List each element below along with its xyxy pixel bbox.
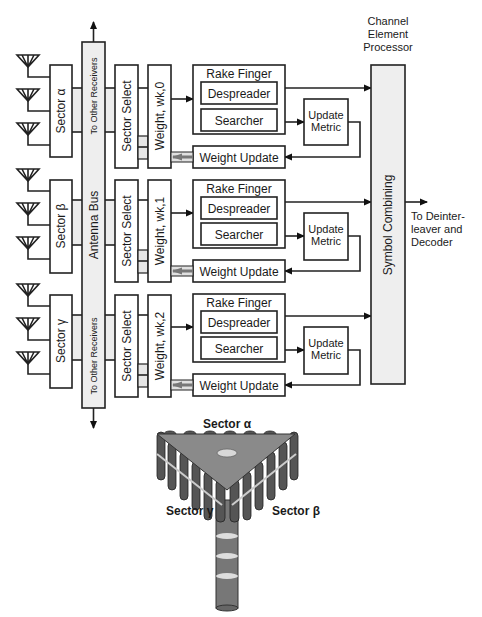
rake-finger-label: Rake Finger: [206, 182, 271, 196]
tower-sector-alpha-label: Sector α: [203, 417, 252, 431]
cep-title-line1: Channel: [368, 15, 409, 27]
sector-select-label: Sector Select: [120, 80, 134, 152]
weight-update-label: Weight Update: [199, 265, 278, 279]
rake-finger-label: Rake Finger: [206, 67, 271, 81]
tower-sector-gamma-label: Sector γ: [166, 504, 214, 518]
output-label-line1: To Deinter-: [411, 210, 465, 222]
antenna-icon: [17, 55, 50, 77]
update-metric-label-1: Update: [308, 223, 343, 235]
rake-finger-label: Rake Finger: [206, 296, 271, 310]
antenna-bus: To Other Receivers Antenna Bus To Other …: [72, 22, 115, 428]
update-metric-label-2: Metric: [311, 235, 341, 247]
to-other-receivers-bottom-label: To Other Receivers: [89, 317, 99, 395]
sector-gamma-group: Sector γ: [17, 284, 72, 388]
sector-gamma-label: Sector γ: [54, 319, 68, 363]
cep-title-line3: Processor: [363, 41, 413, 53]
to-other-receivers-top-label: To Other Receivers: [89, 57, 99, 135]
searcher-label: Searcher: [215, 342, 264, 356]
weight-label: Weight, wk,0: [153, 81, 167, 150]
antenna-icon: [17, 318, 50, 340]
antenna-icon: [17, 203, 50, 225]
antenna-icon: [17, 352, 50, 374]
antenna-icon: [17, 169, 50, 191]
update-metric-label-1: Update: [308, 337, 343, 349]
antenna-bus-label: Antenna Bus: [87, 191, 101, 260]
despreader-label: Despreader: [208, 87, 271, 101]
antenna-icon: [17, 123, 50, 145]
symbol-combining-block: Symbol Combining To Deinter- leaver and …: [371, 65, 465, 384]
weight-update-label: Weight Update: [199, 151, 278, 165]
tower-illustration: Sector α Sector γ Sector β: [157, 417, 320, 611]
sector-beta-label: Sector β: [54, 203, 68, 248]
antenna-icon: [17, 237, 50, 259]
antenna-icon: [17, 89, 50, 111]
symbol-combining-label: Symbol Combining: [381, 175, 395, 276]
weight-update-label: Weight Update: [199, 379, 278, 393]
antenna-icon: [17, 284, 50, 306]
sector-beta-group: Sector β: [17, 169, 72, 273]
sector-alpha-group: Sector α: [17, 55, 72, 157]
update-metric-label-1: Update: [308, 109, 343, 121]
finger-chain-0: Sector Select Weight, wk,0 Rake Finger D…: [115, 65, 371, 168]
output-label-line2: leaver and: [411, 223, 462, 235]
finger-chain-2: Sector Select Weight, wk,2 Rake Finger D…: [115, 294, 371, 397]
sector-select-label: Sector Select: [120, 310, 134, 382]
output-label-line3: Decoder: [411, 236, 453, 248]
weight-label: Weight, wk,1: [153, 196, 167, 265]
finger-chain-1: Sector Select Weight, wk,1 Rake Finger D…: [115, 180, 371, 282]
cep-title-line2: Element: [368, 28, 408, 40]
update-metric-label-2: Metric: [311, 349, 341, 361]
despreader-label: Despreader: [208, 202, 271, 216]
searcher-label: Searcher: [215, 228, 264, 242]
channel-element-processor-title: Channel Element Processor: [363, 15, 413, 53]
sector-alpha-label: Sector α: [54, 88, 68, 133]
tower-sector-beta-label: Sector β: [272, 504, 320, 518]
searcher-label: Searcher: [215, 114, 264, 128]
sector-select-label: Sector Select: [120, 195, 134, 267]
despreader-label: Despreader: [208, 316, 271, 330]
weight-label: Weight, wk,2: [153, 311, 167, 380]
smart-antenna-rake-receiver-diagram: Channel Element Processor To Other Recei…: [0, 0, 482, 617]
update-metric-label-2: Metric: [311, 121, 341, 133]
